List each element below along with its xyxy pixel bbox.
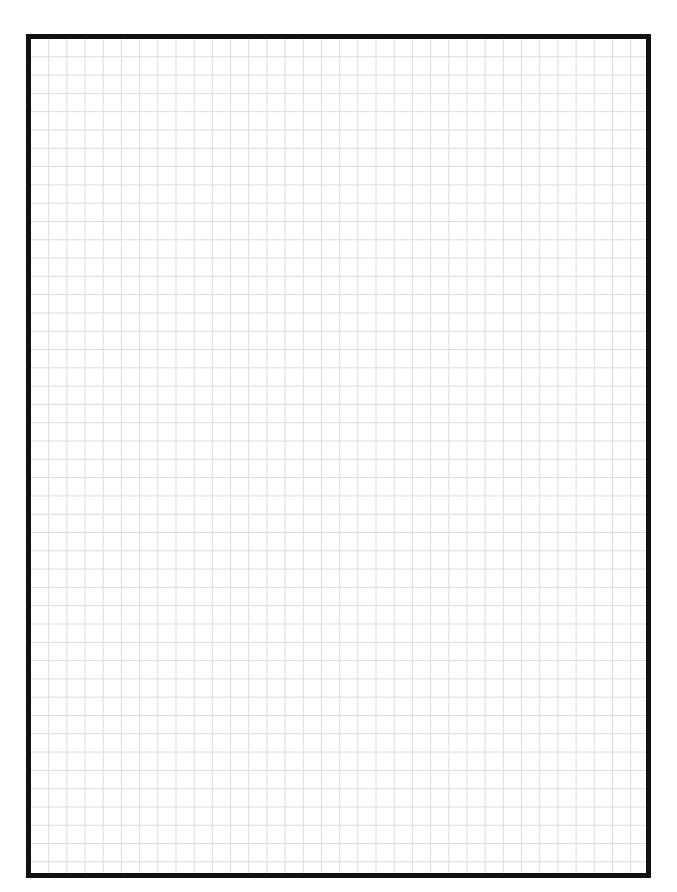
clipped-heading-text [40,0,640,8]
graph-paper-grid [26,34,651,878]
